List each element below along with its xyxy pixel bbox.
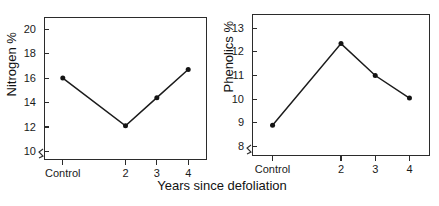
data-point-nitrogen-3 (154, 95, 159, 100)
figure: Nitrogen % 101214161820 Control234 Pheno… (0, 0, 439, 206)
data-point-phenolics-4 (407, 96, 412, 101)
data-point-nitrogen-2 (123, 123, 128, 128)
series-line-nitrogen (63, 70, 188, 126)
series-phenolics (215, 0, 439, 206)
panel-nitrogen: Nitrogen % 101214161820 Control234 (0, 0, 215, 206)
axis-break-icon-nitrogen (38, 145, 50, 161)
axis-break-icon-phenolics (246, 141, 258, 157)
data-point-phenolics-2 (339, 41, 344, 46)
data-point-phenolics-control (270, 123, 275, 128)
data-point-nitrogen-control (60, 76, 65, 81)
x-axis-title-shared: Years since defoliation (157, 178, 287, 193)
data-point-nitrogen-4 (186, 67, 191, 72)
data-point-phenolics-3 (373, 73, 378, 78)
panel-phenolics: Phenolics % 8910111213 Control234 (215, 0, 439, 206)
series-line-phenolics (273, 44, 410, 126)
series-nitrogen (0, 0, 215, 206)
